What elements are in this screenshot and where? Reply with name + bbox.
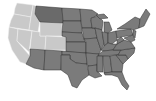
state-iowa[interactable] <box>82 28 97 39</box>
state-new-york[interactable] <box>117 17 140 30</box>
state-mississippi[interactable] <box>97 56 103 72</box>
state-colorado[interactable] <box>45 36 66 50</box>
us-map <box>0 0 156 101</box>
state-michigan[interactable] <box>104 22 112 33</box>
state-montana[interactable] <box>35 6 63 23</box>
state-florida[interactable] <box>104 72 129 90</box>
state-new-mexico[interactable] <box>44 50 62 70</box>
state-north-dakota[interactable] <box>62 8 81 21</box>
state-wyoming[interactable] <box>40 22 62 36</box>
state-new-england[interactable] <box>139 9 150 28</box>
state-ohio[interactable] <box>108 31 117 44</box>
state-south-dakota[interactable] <box>62 21 82 33</box>
